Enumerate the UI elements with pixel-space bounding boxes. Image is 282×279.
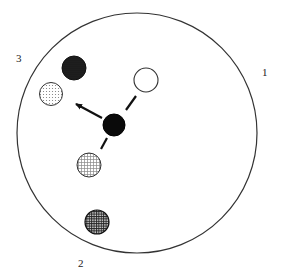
direction-arrow (76, 104, 102, 118)
node-open (134, 68, 158, 92)
node-dark-grid (85, 210, 109, 234)
node-dark-dotted (62, 56, 86, 80)
diagram-canvas: 3 1 2 (0, 0, 282, 279)
connector-to-grid-node (101, 138, 107, 149)
region-label-2: 2 (78, 257, 84, 269)
node-center-black (103, 114, 125, 136)
outer-boundary-circle (17, 13, 257, 253)
node-light-grid (77, 153, 101, 177)
region-label-3: 3 (16, 52, 22, 64)
connector-to-open-node (126, 96, 136, 110)
node-light-dotted (40, 83, 63, 106)
region-label-1: 1 (262, 66, 268, 78)
